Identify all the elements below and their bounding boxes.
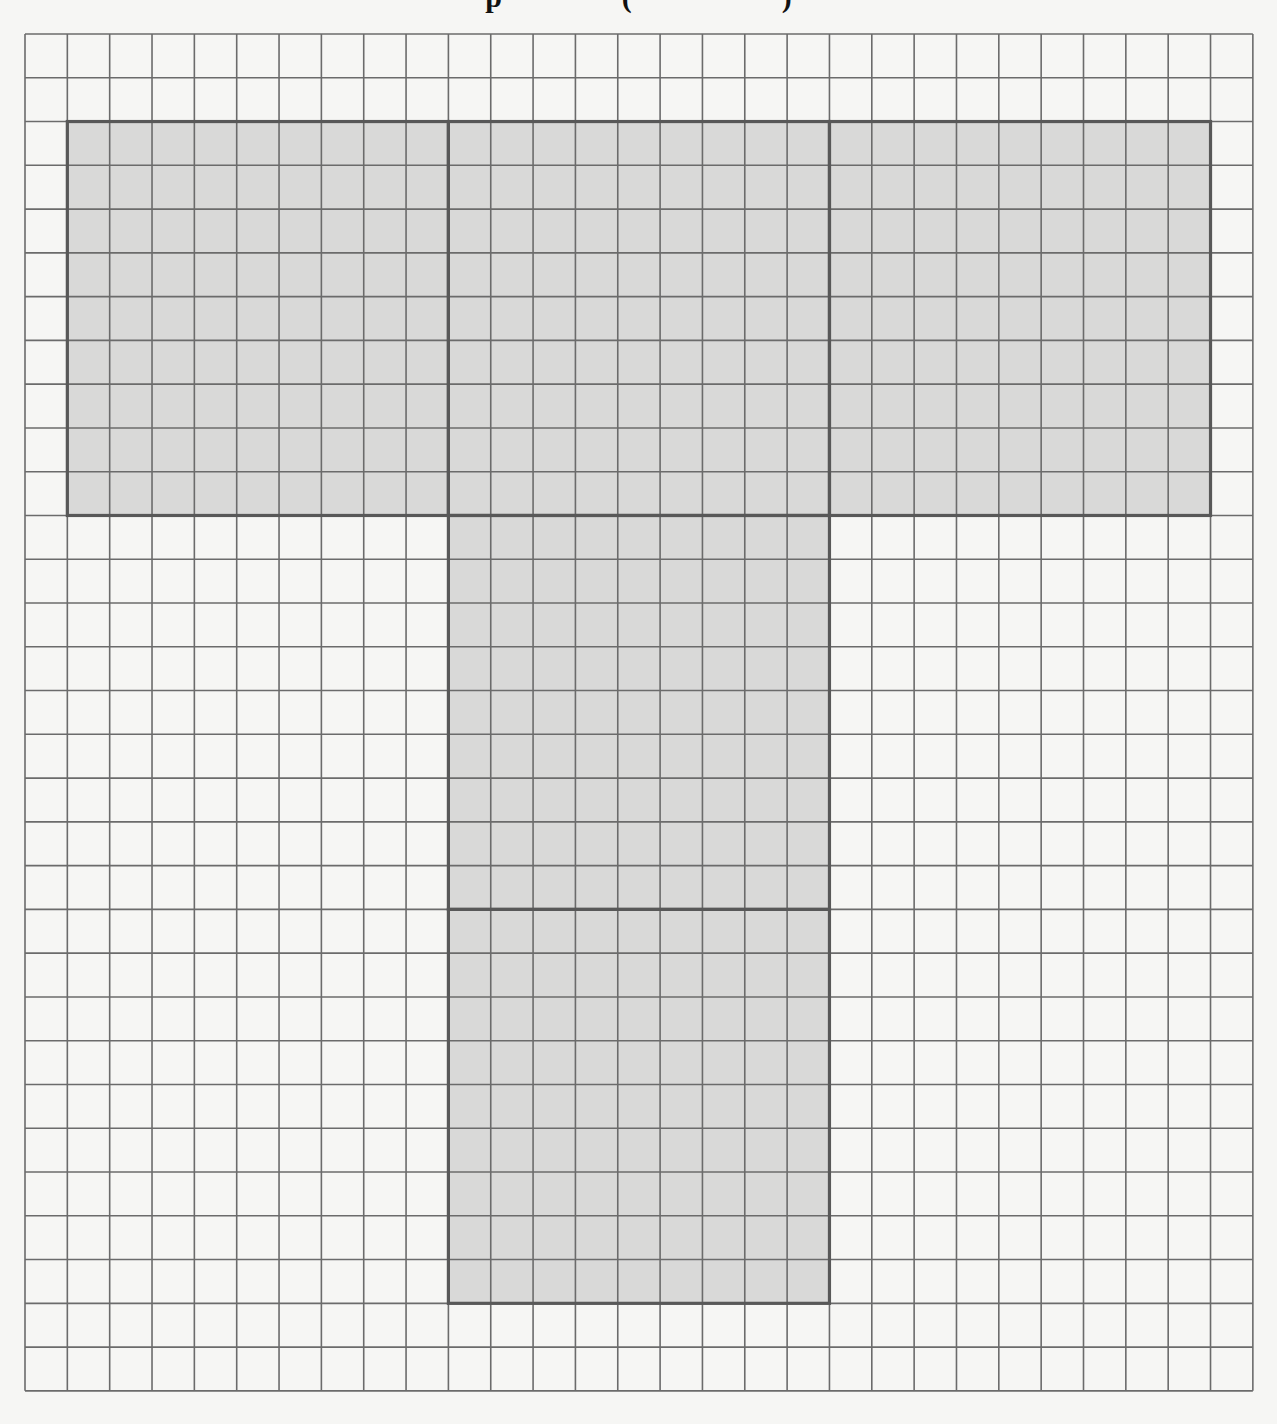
square-stem-upper [448,515,829,909]
shaded-squares [67,122,1210,1304]
square-stem-lower [448,909,829,1303]
graph-paper-grid [0,0,1277,1424]
square-top-left [67,122,448,516]
square-top-center [448,122,829,516]
square-top-right [829,122,1210,516]
